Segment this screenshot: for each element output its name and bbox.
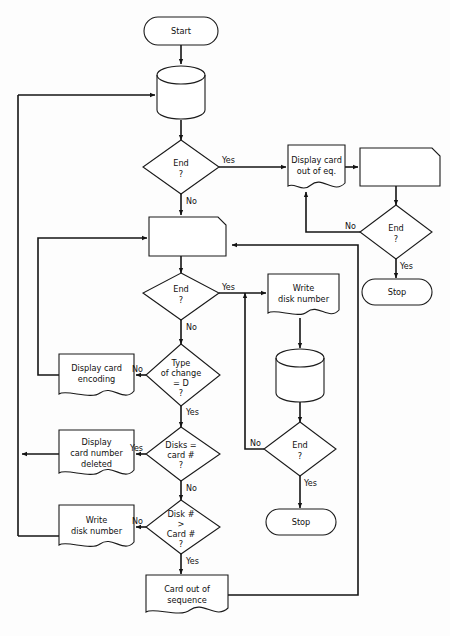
- node-stop-2[interactable]: Stop: [266, 509, 336, 535]
- node-type-of-change[interactable]: Type of change = D ?: [146, 344, 220, 406]
- node-display-card-number-deleted-label-line1: Display: [81, 437, 111, 447]
- node-write-disk-number-bottom-label-line2: disk number: [71, 526, 123, 536]
- edge-label-end4-yes: Yes: [303, 479, 317, 488]
- node-punch-card-2[interactable]: [149, 217, 226, 256]
- node-disk-write[interactable]: [276, 349, 324, 402]
- node-disk-gt-card-label-line1: Disk #: [167, 509, 194, 519]
- node-end-2-label-line2: ?: [394, 234, 398, 244]
- node-end-2-label-line1: End: [388, 223, 404, 233]
- node-write-disk-number-bottom-label-line1: Write: [86, 515, 108, 525]
- node-disk-gt-card[interactable]: Disk # > Card # ?: [146, 500, 220, 554]
- edge-label-disks-yes: Yes: [129, 444, 143, 453]
- node-display-card-encoding-label-line2: encoding: [78, 374, 116, 384]
- node-display-card-encoding-label-line1: Display card: [71, 363, 122, 373]
- node-type-of-change-label-line4: ?: [179, 388, 183, 398]
- node-start[interactable]: Start: [144, 17, 218, 45]
- node-write-disk-number-top[interactable]: Write disk number: [268, 274, 339, 314]
- node-display-card-out-of-eq-label-line1: Display card: [291, 155, 342, 165]
- node-end-2[interactable]: End ?: [360, 205, 432, 259]
- edge-label-type-yes: Yes: [185, 408, 199, 417]
- node-display-card-encoding[interactable]: Display card encoding: [59, 354, 134, 395]
- edge-label-end4-no: No: [250, 439, 261, 448]
- node-disk-gt-card-label-line3: Card #: [167, 529, 196, 539]
- edge-label-end1-no: No: [186, 197, 197, 206]
- node-end-3[interactable]: End ?: [143, 273, 219, 320]
- node-type-of-change-label-line1: Type: [171, 358, 191, 368]
- node-end-1[interactable]: End ?: [143, 140, 219, 194]
- flowchart-diagram: Start End ? Yes No Display card out of e…: [0, 0, 450, 636]
- edge-label-disks-no: No: [186, 484, 197, 493]
- node-card-out-of-sequence-label-line2: sequence: [167, 595, 206, 605]
- node-end-3-label-line1: End: [173, 284, 189, 294]
- node-card-out-of-sequence-label-line1: Card out of: [164, 584, 211, 594]
- node-end-4-label-line2: ?: [298, 451, 302, 461]
- node-disk-read[interactable]: [157, 66, 205, 119]
- edge-label-type-no: No: [132, 365, 143, 374]
- node-end-1-label-line1: End: [173, 158, 189, 168]
- node-start-label: Start: [171, 26, 192, 36]
- node-disk-gt-card-label-line2: >: [178, 519, 185, 529]
- node-display-card-out-of-eq[interactable]: Display card out of eq.: [288, 145, 345, 188]
- node-write-disk-number-top-label-line1: Write: [293, 283, 315, 293]
- node-punch-card-1[interactable]: [360, 148, 440, 186]
- node-display-card-out-of-eq-label-line2: out of eq.: [297, 166, 336, 176]
- flowchart-canvas: Start End ? Yes No Display card out of e…: [0, 0, 450, 636]
- node-disks-eq-card-label-line2: card #: [167, 450, 195, 460]
- node-display-card-number-deleted-label-line2: card number: [70, 448, 123, 458]
- node-disks-eq-card[interactable]: Disks = card # ?: [146, 427, 220, 481]
- node-type-of-change-label-line3: = D: [173, 378, 189, 388]
- edge-label-end2-yes: Yes: [399, 262, 413, 271]
- node-end-3-label-line2: ?: [179, 295, 183, 305]
- edge-label-end2-no: No: [345, 222, 356, 231]
- node-end-4-label-line1: End: [292, 440, 308, 450]
- node-display-card-number-deleted-label-line3: deleted: [81, 459, 112, 469]
- connector-end4-no: [245, 293, 264, 449]
- node-end-1-label-line2: ?: [179, 169, 183, 179]
- node-disks-eq-card-label-line3: ?: [179, 460, 183, 470]
- edge-label-end1-yes: Yes: [221, 156, 235, 165]
- node-type-of-change-label-line2: of change: [161, 368, 202, 378]
- node-stop-1[interactable]: Stop: [362, 279, 432, 305]
- node-disk-gt-card-label-line4: ?: [179, 539, 183, 549]
- node-write-disk-number-top-label-line2: disk number: [278, 294, 330, 304]
- edge-label-diskgt-yes: Yes: [185, 557, 199, 566]
- node-stop-1-label: Stop: [388, 287, 407, 297]
- edge-label-end3-yes: Yes: [221, 283, 235, 292]
- node-display-card-number-deleted[interactable]: Display card number deleted: [59, 430, 134, 474]
- node-end-4[interactable]: End ?: [264, 422, 336, 476]
- edge-label-diskgt-no: No: [132, 517, 143, 526]
- node-disks-eq-card-label-line1: Disks =: [165, 440, 196, 450]
- node-stop-2-label: Stop: [292, 517, 311, 527]
- edge-label-end3-no: No: [186, 323, 197, 332]
- node-write-disk-number-bottom[interactable]: Write disk number: [59, 505, 134, 546]
- node-card-out-of-sequence[interactable]: Card out of sequence: [146, 575, 228, 613]
